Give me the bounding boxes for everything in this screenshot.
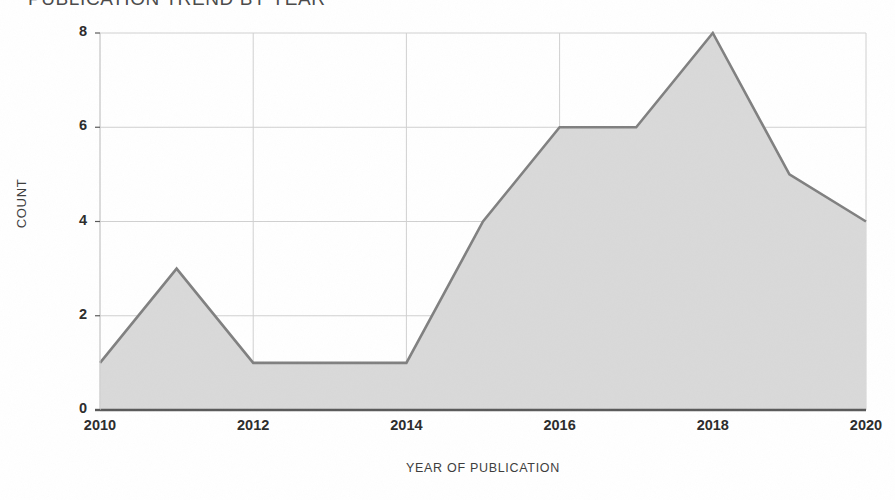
y-tick-label: 0 xyxy=(57,400,87,416)
x-tick-label: 2012 xyxy=(218,417,288,433)
plot-area: 02468 201020122014201620182020 xyxy=(0,0,895,500)
x-tick-label: 2014 xyxy=(371,417,441,433)
x-tick-label: 2016 xyxy=(525,417,595,433)
y-tick-label: 8 xyxy=(57,23,87,39)
x-tick-label: 2018 xyxy=(678,417,748,433)
x-tick-label: 2010 xyxy=(65,417,135,433)
y-tick-label: 6 xyxy=(57,117,87,133)
x-tick-label: 2020 xyxy=(831,417,895,433)
y-tick-label: 2 xyxy=(57,306,87,322)
y-tick-label: 4 xyxy=(57,212,87,228)
chart-figure: PUBLICATION TREND BY YEAR COUNT YEAR OF … xyxy=(0,0,895,500)
y-tick-marks xyxy=(95,33,100,410)
